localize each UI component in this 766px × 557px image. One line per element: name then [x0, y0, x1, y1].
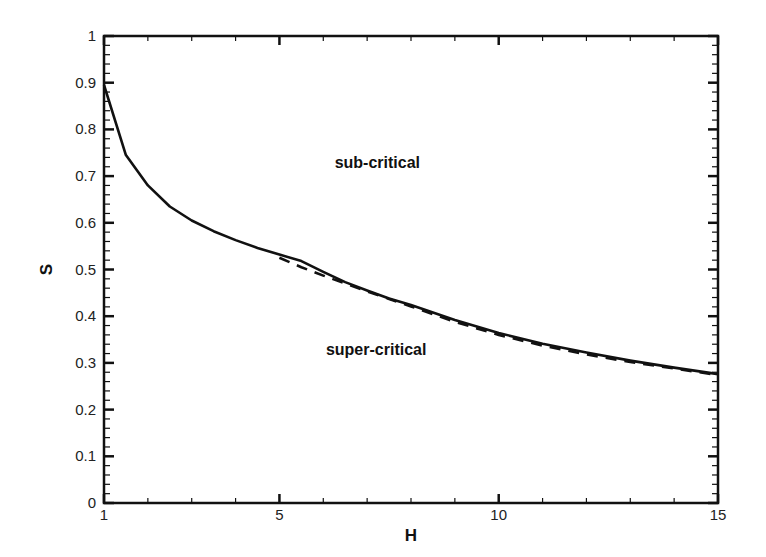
y-tick-label: 0.1 [75, 447, 96, 464]
x-tick-label: 15 [710, 506, 727, 523]
y-axis-title: S [37, 264, 56, 275]
y-tick-label: 0.7 [75, 167, 96, 184]
x-tick-label: 1 [100, 506, 108, 523]
y-tick-label: 0 [88, 494, 96, 511]
solid-curve [104, 85, 718, 374]
x-tick-label: 10 [490, 506, 507, 523]
y-tick-label: 1 [88, 27, 96, 44]
y-tick-label: 0.8 [75, 120, 96, 137]
x-axis-title: H [405, 526, 417, 545]
y-tick-label: 0.4 [75, 307, 96, 324]
axis-ticks [104, 36, 718, 503]
y-tick-label: 0.3 [75, 354, 96, 371]
x-tick-label: 5 [275, 506, 283, 523]
annotation-super-critical: super-critical [326, 341, 426, 358]
y-tick-label: 0.2 [75, 401, 96, 418]
y-tick-label: 0.5 [75, 261, 96, 278]
series-layer [104, 85, 718, 375]
axis-tick-labels: 15101500.10.20.30.40.50.60.70.80.91 [75, 27, 726, 523]
y-tick-label: 0.9 [75, 74, 96, 91]
chart: 15101500.10.20.30.40.50.60.70.80.91 H S … [0, 0, 766, 557]
plot-frame [104, 36, 718, 503]
chart-canvas: 15101500.10.20.30.40.50.60.70.80.91 H S … [0, 0, 766, 557]
annotation-sub-critical: sub-critical [335, 154, 420, 171]
y-tick-label: 0.6 [75, 214, 96, 231]
